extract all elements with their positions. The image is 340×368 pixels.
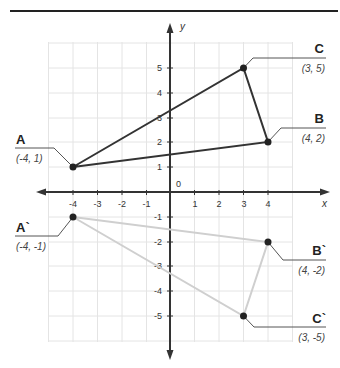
y-axis-up-arrow-icon — [167, 23, 174, 33]
svg-text:-3: -3 — [93, 199, 101, 209]
svg-text:4: 4 — [157, 88, 162, 98]
label-C-coord: (3, 5) — [302, 63, 325, 74]
label-A: A — [16, 132, 26, 147]
label-C-prime: C` — [312, 311, 326, 326]
point-C-prime — [240, 313, 247, 320]
svg-text:5: 5 — [157, 63, 162, 73]
label-C-prime-coord: (3, -5) — [298, 332, 325, 343]
svg-text:-5: -5 — [154, 311, 162, 321]
svg-text:-2: -2 — [154, 237, 162, 247]
x-axis-left-arrow-icon — [36, 189, 46, 196]
x-axis — [36, 189, 330, 196]
y-axis-down-arrow-icon — [167, 350, 174, 360]
x-axis-label: x — [321, 198, 328, 209]
origin-label: 0 — [176, 179, 181, 189]
point-A-prime — [70, 214, 77, 221]
label-A-coord: (-4, 1) — [16, 153, 43, 164]
svg-text:-1: -1 — [142, 199, 150, 209]
svg-text:-4: -4 — [69, 199, 77, 209]
svg-text:2: 2 — [157, 137, 162, 147]
label-B-prime-coord: (4, -2) — [298, 265, 325, 276]
svg-text:-2: -2 — [118, 199, 126, 209]
point-C — [240, 65, 247, 72]
svg-text:-1: -1 — [154, 212, 162, 222]
label-B: B — [315, 111, 324, 126]
label-A-prime-coord: (-4, -1) — [16, 241, 46, 252]
coordinate-plane-diagram: -4 -3 -2 -1 1 2 3 4 5 4 3 2 1 -1 -2 -3 -… — [0, 0, 340, 368]
svg-text:1: 1 — [192, 199, 197, 209]
label-B-coord: (4, 2) — [302, 133, 325, 144]
svg-text:3: 3 — [241, 199, 246, 209]
point-B — [265, 139, 272, 146]
y-axis-label: y — [179, 21, 186, 32]
label-C: C — [315, 41, 325, 56]
x-axis-right-arrow-icon — [320, 189, 330, 196]
point-B-prime — [265, 239, 272, 246]
svg-text:2: 2 — [216, 199, 221, 209]
svg-text:4: 4 — [265, 199, 270, 209]
label-A-prime: A` — [16, 220, 30, 235]
label-B-prime: B` — [312, 243, 326, 258]
svg-text:-4: -4 — [154, 286, 162, 296]
point-A — [70, 164, 77, 171]
svg-text:1: 1 — [157, 162, 162, 172]
